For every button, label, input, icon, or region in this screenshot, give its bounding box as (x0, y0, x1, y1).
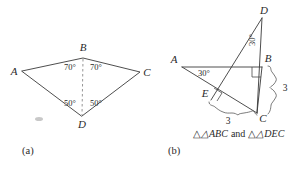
angle-label-adb: 50° (64, 98, 76, 108)
caption-and-text: and (231, 128, 245, 139)
panel-b-caption: △△ABCand△△DEC (193, 128, 285, 139)
geometry-figure-svg: A B C D 70° 70° 50° 50° (a) (0, 0, 298, 169)
angle-label-bdc: 50° (90, 98, 102, 108)
kite-outline-abcd (22, 58, 140, 116)
panel-a-group: A B C D 70° 70° 50° 50° (a) (10, 41, 152, 157)
angle-label-at-d: 30° (247, 34, 257, 46)
vertex-label-b-b: B (265, 52, 272, 64)
side-length-bc: 3 (283, 83, 288, 93)
angle-label-dbc: 70° (90, 62, 102, 72)
vertex-label-b-c: C (259, 112, 267, 124)
caption-triangle-dec: △ (248, 128, 256, 139)
right-angle-mark-dec (214, 88, 222, 101)
vertex-label-d: D (77, 118, 86, 130)
geometry-figure-container: A B C D 70° 70° 50° 50° (a) (0, 0, 298, 169)
segment-ac-through-e (182, 67, 257, 113)
vertex-label-a: A (10, 65, 18, 77)
panel-label-b: (b) (168, 145, 181, 157)
vertex-label-b-e: E (201, 87, 209, 99)
vertex-label-c: C (143, 66, 151, 78)
caption-abc-text: △ABC (200, 128, 228, 139)
side-length-ec: 3 (226, 116, 231, 126)
brace-bc (268, 66, 276, 114)
vertex-label-b-a: A (170, 53, 178, 65)
scan-artifact-speck (35, 117, 43, 121)
angle-label-abd: 70° (64, 62, 76, 72)
panel-label-a: (a) (22, 145, 34, 157)
vertex-label-b-d: D (259, 4, 268, 16)
caption-dec-text: △DEC (255, 128, 284, 139)
panel-b-group: A B C D E 30° 30° 3 3 △△ABCand△△DEC (b) (168, 4, 288, 157)
caption-triangle-abc: △ (193, 128, 201, 139)
segment-de (211, 18, 262, 100)
angle-label-at-a: 30° (198, 68, 210, 78)
segment-dc (257, 18, 262, 113)
diagonal-bd-dashed (82, 59, 83, 115)
vertex-label-b: B (80, 41, 87, 53)
